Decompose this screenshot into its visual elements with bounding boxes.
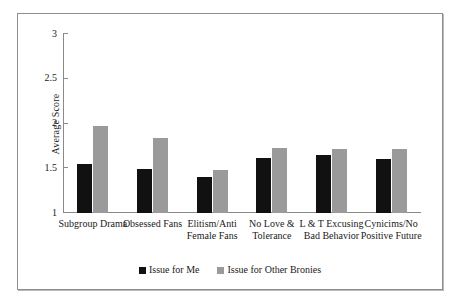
category-label: Cynicims/No Positive Future xyxy=(354,218,428,241)
legend-label: Issue for Me xyxy=(149,265,200,275)
bar xyxy=(272,148,287,213)
bar xyxy=(137,169,152,213)
legend-swatch-icon xyxy=(139,267,146,274)
bar-group: Elitism/Anti Female Fans xyxy=(182,34,242,213)
bar-group: Cynicims/No Positive Future xyxy=(361,34,421,213)
legend-swatch-icon xyxy=(217,267,224,274)
bar-pair xyxy=(361,34,421,213)
bar xyxy=(197,177,212,213)
chart-figure: Average Score 11.522.53 Subgroup DramaOb… xyxy=(17,13,443,290)
legend-item: Issue for Me xyxy=(139,265,200,275)
chart-legend: Issue for MeIssue for Other Bronies xyxy=(18,265,442,275)
legend-label: Issue for Other Bronies xyxy=(227,265,321,275)
bar-pair xyxy=(182,34,242,213)
bar-pair xyxy=(123,34,183,213)
bar xyxy=(376,159,391,213)
bar-group: Obsessed Fans xyxy=(123,34,183,213)
bar xyxy=(213,170,228,213)
y-tick-label: 2 xyxy=(52,118,57,128)
bar-group: L & T Excusing Bad Behavior xyxy=(302,34,362,213)
bar-pair xyxy=(63,34,123,213)
legend-item: Issue for Other Bronies xyxy=(217,265,321,275)
bar xyxy=(316,155,331,213)
y-tick-label: 2.5 xyxy=(45,73,58,83)
bar xyxy=(256,158,271,213)
bar xyxy=(332,149,347,213)
plot-area: Average Score 11.522.53 Subgroup DramaOb… xyxy=(63,34,421,213)
bar-group: No Love & Tolerance xyxy=(242,34,302,213)
bar xyxy=(153,138,168,213)
bar xyxy=(93,126,108,213)
bar-pair xyxy=(242,34,302,213)
bar-group: Subgroup Drama xyxy=(63,34,123,213)
y-tick-label: 3 xyxy=(52,29,57,39)
bar-pair xyxy=(302,34,362,213)
y-tick-label: 1.5 xyxy=(45,163,58,173)
y-tick-label: 1 xyxy=(52,208,57,218)
bar xyxy=(77,164,92,213)
bar xyxy=(392,149,407,213)
